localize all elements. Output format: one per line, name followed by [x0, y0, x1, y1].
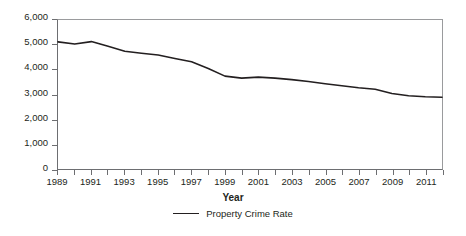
x-axis-tick-mark	[292, 170, 293, 175]
x-axis-tick-label: 2009	[382, 176, 403, 187]
chart-legend: Property Crime Rate	[0, 208, 466, 219]
y-axis-tick-label: 6,000	[24, 12, 48, 22]
legend-item: Property Crime Rate	[173, 208, 293, 219]
series-line-property-crime-rate	[58, 20, 442, 169]
y-axis-tick-label: 1,000	[24, 138, 48, 148]
legend-label: Property Crime Rate	[206, 208, 293, 219]
x-axis-tick-mark	[443, 170, 444, 175]
x-axis-tick-mark	[74, 170, 75, 175]
x-axis-tick-mark	[275, 170, 276, 175]
y-axis-tick-label: 3,000	[24, 88, 48, 98]
x-axis-tick-mark	[393, 170, 394, 175]
x-axis-tick-mark	[258, 170, 259, 175]
x-axis-tick-mark	[124, 170, 125, 175]
x-axis-tick-mark	[326, 170, 327, 175]
x-axis-tick-mark	[242, 170, 243, 175]
legend-line-swatch	[173, 213, 199, 214]
chart-figure: 6,0005,0004,0003,0002,0001,0000 19891991…	[0, 0, 466, 236]
x-axis-tick-mark	[309, 170, 310, 175]
x-axis-tick-label: 2007	[349, 176, 370, 187]
x-axis-tick-label: 1999	[214, 176, 235, 187]
x-axis-tick-mark	[359, 170, 360, 175]
x-axis-tick-label: 1989	[46, 176, 67, 187]
x-axis-tick-label: 2005	[315, 176, 336, 187]
x-axis-tick-mark	[376, 170, 377, 175]
x-axis-tick-mark	[208, 170, 209, 175]
x-axis-tick-mark	[426, 170, 427, 175]
x-axis-tick-label: 2001	[248, 176, 269, 187]
x-axis-tick-label: 1997	[181, 176, 202, 187]
x-axis-tick-label: 1993	[114, 176, 135, 187]
x-axis-tick-mark	[342, 170, 343, 175]
x-axis-title: Year	[0, 192, 466, 203]
y-axis-tick-label: 2,000	[24, 113, 48, 123]
x-axis-tick-mark	[107, 170, 108, 175]
x-axis-tick-label: 2011	[416, 176, 436, 187]
x-axis-tick-mark	[91, 170, 92, 175]
x-axis-tick-label: 1991	[80, 176, 101, 187]
x-axis-tick-mark	[409, 170, 410, 175]
x-axis-tick-mark	[57, 170, 58, 175]
y-axis-tick-label: 0	[43, 163, 48, 173]
x-axis-tick-mark	[158, 170, 159, 175]
x-axis-tick-mark	[191, 170, 192, 175]
y-axis-tick-label: 4,000	[24, 62, 48, 72]
x-axis-tick-label: 1995	[147, 176, 168, 187]
x-axis-tick-label: 2003	[281, 176, 302, 187]
plot-area	[57, 19, 443, 170]
x-axis-tick-mark	[225, 170, 226, 175]
y-axis-tick-label: 5,000	[24, 37, 48, 47]
x-axis-tick-mark	[174, 170, 175, 175]
x-axis-tick-mark	[141, 170, 142, 175]
